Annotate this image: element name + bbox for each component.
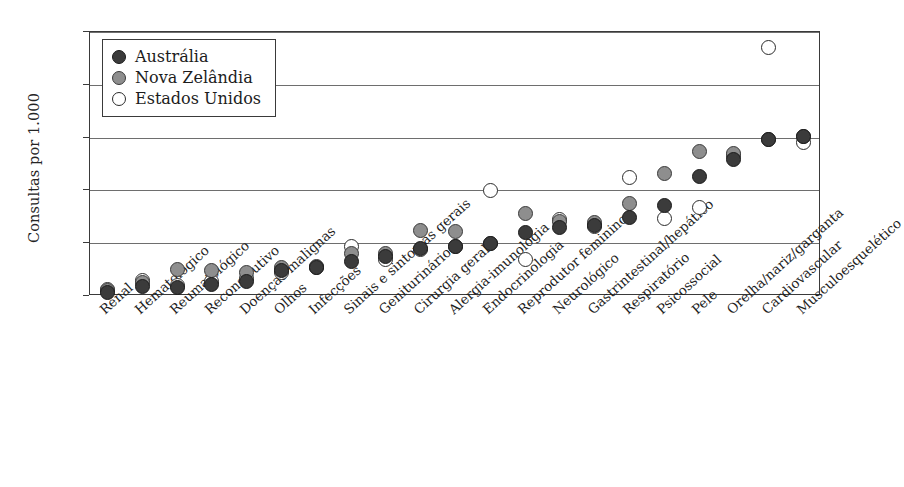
data-point-us: [657, 211, 672, 226]
data-point-au: [100, 285, 115, 300]
data-point-us: [518, 252, 533, 267]
data-point-au: [587, 218, 602, 233]
data-point-au: [483, 236, 498, 251]
data-point-au: [204, 277, 219, 292]
data-point-nz: [170, 262, 185, 277]
data-point-nz: [413, 223, 428, 238]
data-point-au: [309, 260, 324, 275]
legend-label: Austrália: [135, 49, 208, 65]
gridline: [90, 32, 819, 33]
legend-item: Austrália: [112, 46, 261, 67]
legend-item: Nova Zelândia: [112, 67, 261, 88]
data-point-nz: [692, 144, 707, 159]
data-point-au: [239, 274, 254, 289]
data-point-au: [692, 169, 707, 184]
data-point-au: [761, 132, 776, 147]
data-point-us: [692, 200, 707, 215]
data-point-nz: [518, 206, 533, 221]
data-point-au: [274, 263, 289, 278]
legend-marker-au-icon: [112, 50, 126, 64]
data-point-au: [622, 210, 637, 225]
data-point-au: [552, 220, 567, 235]
chart-legend: AustráliaNova ZelândiaEstados Unidos: [102, 39, 276, 117]
data-point-nz: [622, 196, 637, 211]
data-point-au: [657, 198, 672, 213]
legend-marker-us-icon: [112, 92, 126, 106]
legend-marker-nz-icon: [112, 71, 126, 85]
y-axis-tick-mark: [83, 295, 89, 296]
data-point-au: [518, 225, 533, 240]
y-axis-title: Consultas por 1.000: [26, 33, 42, 303]
legend-item: Estados Unidos: [112, 88, 261, 109]
data-point-nz: [448, 224, 463, 239]
data-point-us: [622, 170, 637, 185]
data-point-au: [170, 280, 185, 295]
data-point-au: [344, 254, 359, 269]
data-point-au: [448, 239, 463, 254]
data-point-au: [135, 279, 150, 294]
gridline: [90, 138, 819, 139]
legend-label: Estados Unidos: [135, 91, 261, 107]
gridline: [90, 190, 819, 191]
data-point-us: [483, 183, 498, 198]
data-point-au: [726, 152, 741, 167]
legend-label: Nova Zelândia: [135, 70, 253, 86]
data-point-nz: [657, 166, 672, 181]
data-point-us: [761, 40, 776, 55]
